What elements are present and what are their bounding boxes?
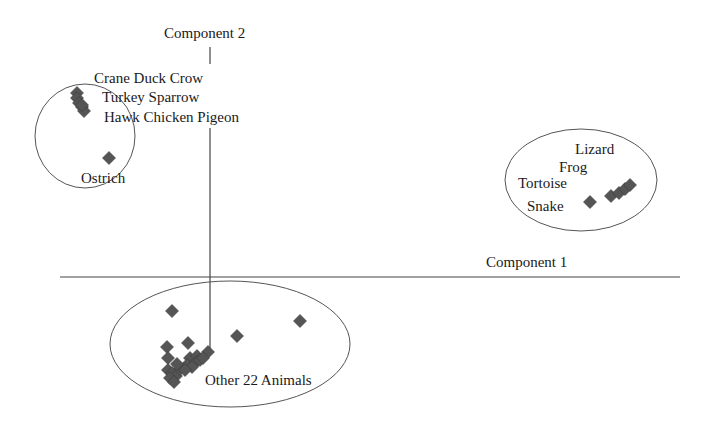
label-turkey-sparrow: Turkey Sparrow: [102, 90, 199, 105]
cluster-ellipse: [110, 281, 350, 407]
label-lizard: Lizard: [575, 142, 614, 157]
data-point-diamond: [182, 337, 195, 350]
label-snake: Snake: [527, 199, 564, 214]
data-point-diamond: [231, 330, 244, 343]
label-other-22-animals: Other 22 Animals: [205, 373, 312, 388]
label-ostrich: Ostrich: [81, 171, 125, 186]
data-point-diamond: [294, 315, 307, 328]
label-tortoise: Tortoise: [518, 176, 567, 191]
cluster-ellipses: [35, 84, 657, 407]
data-point-diamond: [584, 196, 597, 209]
x-axis-label: Component 1: [486, 255, 567, 270]
y-axis-label: Component 2: [164, 26, 245, 41]
data-points: [71, 87, 637, 389]
scatter-plot: [0, 0, 710, 433]
data-point-diamond: [166, 305, 179, 318]
data-point-diamond: [161, 341, 174, 354]
label-crane-duck-crow: Crane Duck Crow: [94, 71, 203, 86]
data-point-diamond: [103, 152, 116, 165]
label-frog: Frog: [559, 160, 587, 175]
label-hawk-chicken-pigeon: Hawk Chicken Pigeon: [104, 110, 239, 125]
